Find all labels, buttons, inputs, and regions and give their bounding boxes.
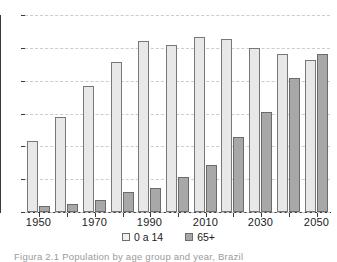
- legend-entry-young[interactable]: 0 a 14: [122, 231, 163, 243]
- y-axis-tick: [21, 81, 25, 82]
- bar-group-2000: [166, 15, 189, 212]
- bar-1950-young: [27, 141, 38, 212]
- legend-label: 65+: [197, 231, 215, 243]
- legend-swatch-icon: [122, 233, 130, 241]
- bar-group-2040: [277, 15, 300, 212]
- legend-swatch-icon: [185, 233, 193, 241]
- x-axis-tick: [233, 213, 234, 217]
- bar-group-1950: [27, 15, 50, 212]
- x-axis-label-2010: 2010: [184, 216, 228, 228]
- x-axis-label-1970: 1970: [73, 216, 117, 228]
- bar-group-1970: [83, 15, 106, 212]
- chart-legend: 0 a 1465+: [0, 231, 337, 243]
- bar-2040-old: [289, 78, 300, 212]
- x-axis-label-2050: 2050: [295, 216, 337, 228]
- x-axis-tick: [67, 213, 68, 217]
- bar-2000-old: [178, 177, 189, 212]
- x-axis-tick: [178, 213, 179, 217]
- bar-1960-young: [55, 117, 66, 212]
- bar-group-1980: [111, 15, 134, 212]
- bar-1950-old: [39, 206, 50, 212]
- bar-2020-young: [221, 39, 232, 212]
- y-axis-tick: [21, 179, 25, 180]
- y-axis-line: [0, 15, 1, 213]
- bar-2040-young: [277, 54, 288, 212]
- x-axis-label-2030: 2030: [239, 216, 283, 228]
- bar-group-1960: [55, 15, 78, 212]
- bar-2030-old: [261, 112, 272, 212]
- bar-2050-young: [305, 60, 316, 212]
- bar-2030-young: [249, 48, 260, 212]
- y-axis-tick: [21, 15, 25, 16]
- bar-2000-young: [166, 45, 177, 212]
- x-axis-tick: [123, 213, 124, 217]
- bar-2050-old: [317, 54, 328, 212]
- bar-1990-young: [138, 41, 149, 212]
- y-axis-tick: [21, 146, 25, 147]
- bar-group-1990: [138, 15, 161, 212]
- y-axis-tick: [21, 114, 25, 115]
- bar-2010-old: [206, 165, 217, 212]
- x-axis-label-1990: 1990: [128, 216, 172, 228]
- plot-area: [25, 15, 330, 212]
- bar-1970-old: [95, 200, 106, 212]
- bar-1960-old: [67, 204, 78, 212]
- y-axis-tick: [21, 48, 25, 49]
- bar-group-2050: [305, 15, 328, 212]
- bar-2020-old: [233, 137, 244, 212]
- x-axis-label-1950: 1950: [17, 216, 61, 228]
- figure-caption: Figura 2.1 Population by age group and y…: [14, 251, 334, 262]
- bar-1990-old: [150, 188, 161, 212]
- bar-1980-old: [123, 192, 134, 212]
- y-axis-tick: [21, 212, 25, 213]
- bar-1980-young: [111, 62, 122, 212]
- bar-2010-young: [194, 37, 205, 212]
- bar-group-2010: [194, 15, 217, 212]
- x-axis-tick: [289, 213, 290, 217]
- bar-group-2020: [221, 15, 244, 212]
- bar-1970-young: [83, 86, 94, 212]
- legend-entry-old[interactable]: 65+: [185, 231, 215, 243]
- legend-label: 0 a 14: [134, 231, 163, 243]
- bar-group-2030: [249, 15, 272, 212]
